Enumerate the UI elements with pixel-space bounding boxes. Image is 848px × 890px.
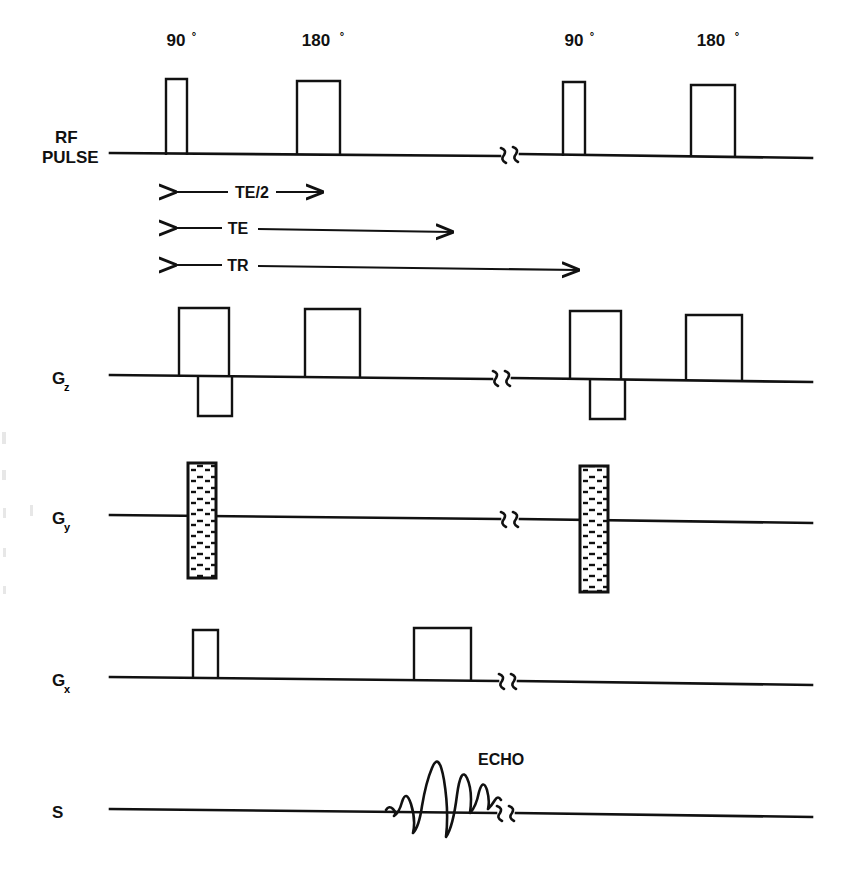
row-label-rf: RF (55, 128, 78, 147)
gy-phase-encode-2 (580, 466, 608, 592)
rf-pulse-90-second (563, 82, 585, 156)
row-gz: G z (52, 308, 812, 419)
gy-phase-encode-1 (188, 463, 216, 578)
row-gx: G x (52, 628, 812, 695)
echo-label: ECHO (478, 751, 524, 768)
echo-waveform (386, 762, 501, 837)
rf-pulse-180-second (691, 85, 735, 157)
row-label-rf-line2: PULSE (42, 148, 99, 167)
signal-baseline (110, 809, 812, 817)
pulse-sequence-diagram: RF PULSE 90 ° 180 ° 90 ° 180 ° (0, 0, 848, 890)
break-mark-gz (493, 371, 510, 386)
gx-pulse-readout (414, 628, 471, 680)
te-arrow-right (258, 229, 452, 232)
tr-arrow-right (258, 266, 578, 270)
rf-pulse-label-180-first: 180 (302, 31, 330, 50)
timing-arrow-te: TE (175, 220, 452, 237)
row-label-gy-subscript: y (64, 521, 71, 533)
gz-pulse-positive-2 (305, 309, 360, 377)
timing-arrow-te-half: TE/2 (175, 184, 322, 201)
rf-pulse-90-first (166, 79, 187, 155)
rf-pulse-180-first (297, 81, 340, 155)
break-mark-gy (501, 512, 518, 527)
row-rf-pulse: RF PULSE 90 ° 180 ° 90 ° 180 ° (42, 30, 812, 167)
rf-degree-symbol-2: ° (340, 30, 344, 42)
gx-pulse-dephase (193, 630, 218, 678)
gz-pulse-positive-4 (686, 315, 742, 381)
timing-label-te: TE (228, 220, 249, 237)
rf-baseline (110, 153, 812, 158)
row-label-gx-subscript: x (64, 683, 71, 695)
rf-degree-symbol-3: ° (590, 30, 594, 42)
timing-arrow-tr: TR (175, 257, 578, 274)
timing-annotations: TE/2 TE TR (175, 184, 578, 274)
rf-degree-symbol-1: ° (192, 30, 196, 42)
row-gy: G y (52, 463, 812, 592)
rf-pulse-label-180-second: 180 (697, 31, 725, 50)
rf-pulse-label-90-second: 90 (565, 31, 584, 50)
timing-label-te-half: TE/2 (235, 184, 269, 201)
gz-pulse-negative-1 (198, 377, 232, 416)
gx-baseline (110, 677, 812, 685)
rf-degree-symbol-4: ° (735, 30, 739, 42)
break-mark-gx (499, 674, 516, 689)
gz-pulse-positive-3 (570, 311, 621, 379)
page-edge-artifacts (2, 432, 33, 594)
gz-baseline (110, 375, 812, 382)
row-signal: S ECHO (52, 751, 812, 837)
gz-pulse-negative-2 (590, 380, 625, 419)
row-label-s: S (52, 803, 63, 822)
row-label-gz-subscript: z (64, 381, 70, 393)
break-mark-rf (501, 147, 518, 163)
break-mark-signal (497, 806, 514, 821)
timing-label-tr: TR (227, 257, 249, 274)
sequence-canvas: RF PULSE 90 ° 180 ° 90 ° 180 ° (0, 0, 848, 890)
gz-pulse-positive-1 (179, 308, 229, 376)
rf-pulse-label-90-first: 90 (167, 31, 186, 50)
